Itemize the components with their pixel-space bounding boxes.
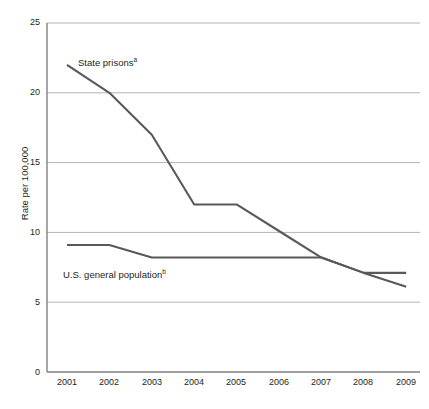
x-tick-label-2009: 2009 [386, 378, 426, 387]
line-chart: Rate per 100,000 25 20 15 10 5 0 2001 20… [0, 0, 429, 409]
y-tick-label-10: 10 [14, 228, 40, 237]
series-label-us-general-population-footnote: b [162, 268, 166, 275]
series-label-us-general-population-text: U.S. general population [63, 269, 162, 280]
series-line-state-prisons [67, 65, 406, 287]
y-tick-label-20: 20 [14, 88, 40, 97]
x-tick-label-2005: 2005 [216, 378, 256, 387]
series-label-state-prisons-footnote: a [133, 56, 137, 63]
chart-canvas [0, 0, 429, 409]
y-tick-label-0: 0 [14, 368, 40, 377]
x-tick-label-2006: 2006 [259, 378, 299, 387]
x-tick-label-2007: 2007 [301, 378, 341, 387]
y-tick-label-25: 25 [14, 18, 40, 27]
series-label-state-prisons-text: State prisons [78, 57, 133, 68]
x-tick-label-2001: 2001 [47, 378, 87, 387]
series-label-state-prisons: State prisonsa [78, 58, 137, 68]
y-tick-label-15: 15 [14, 158, 40, 167]
x-tick-label-2008: 2008 [343, 378, 383, 387]
y-tick-label-5: 5 [14, 298, 40, 307]
series-label-us-general-population: U.S. general populationb [63, 270, 166, 280]
x-tick-label-2002: 2002 [89, 378, 129, 387]
x-tick-label-2003: 2003 [132, 378, 172, 387]
x-tick-label-2004: 2004 [174, 378, 214, 387]
